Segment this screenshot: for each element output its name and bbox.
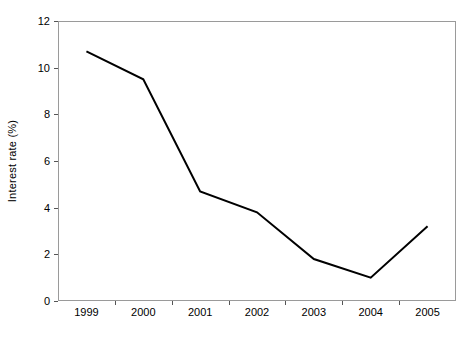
series-layer (0, 0, 470, 345)
chart-figure: Interest rate (%) 024681012 199920002001… (0, 0, 470, 345)
series-line (86, 51, 427, 277)
